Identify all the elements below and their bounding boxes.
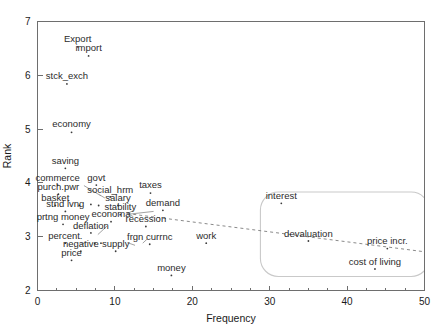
data-point-label: interest <box>266 190 298 201</box>
data-point-label: economy <box>52 118 91 129</box>
data-point <box>145 226 147 228</box>
data-point-label: recession <box>126 213 167 224</box>
data-point <box>71 131 73 133</box>
data-point-label: supply <box>102 238 130 249</box>
data-point <box>88 55 90 57</box>
x-tick-label: 40 <box>342 296 354 307</box>
data-point-label: stnd lvng <box>46 198 84 209</box>
data-point-label: import <box>75 42 102 53</box>
data-point <box>110 221 112 223</box>
x-tick-label: 0 <box>35 296 41 307</box>
y-tick-label: 2 <box>25 285 31 296</box>
x-tick-label: 30 <box>264 296 276 307</box>
y-tick-label: 5 <box>25 124 31 135</box>
axis-frame-layer <box>38 22 425 291</box>
data-point <box>205 242 207 244</box>
data-point-label: saving <box>52 155 79 166</box>
data-point-label: devaluation <box>284 228 333 239</box>
x-tick-label: 10 <box>109 296 121 307</box>
data-point-label: price incr. <box>367 235 408 246</box>
data-point-label: frgn currnc <box>127 231 173 242</box>
data-point <box>90 232 92 234</box>
data-point <box>308 240 310 242</box>
data-point <box>66 83 68 85</box>
plot-canvas: 01020304050234567 Exportimportstck_exche… <box>0 0 440 330</box>
data-point-label: price <box>61 247 82 258</box>
y-tick-label: 3 <box>25 231 31 242</box>
data-point <box>98 205 100 207</box>
data-point-label: stck_exch <box>46 70 88 81</box>
data-point <box>64 167 66 169</box>
data-point <box>115 250 117 252</box>
tick-layer <box>38 22 425 291</box>
data-point <box>386 248 388 250</box>
data-point <box>149 243 151 245</box>
data-point-label: demand <box>146 197 180 208</box>
y-tick-label: 4 <box>25 177 31 188</box>
point-label-layer: Exportimportstck_excheconomysavingcommer… <box>35 33 407 273</box>
data-point <box>280 202 282 204</box>
data-point <box>150 192 152 194</box>
x-axis-title: Frequency <box>206 312 256 324</box>
data-point <box>71 259 73 261</box>
data-point <box>162 209 164 211</box>
x-tick-label: 20 <box>187 296 199 307</box>
data-point <box>171 275 173 277</box>
data-point <box>90 204 92 206</box>
data-point <box>62 223 64 225</box>
y-axis-title: Rank <box>1 143 13 168</box>
y-tick-label: 7 <box>25 16 31 27</box>
data-point-label: work <box>195 230 216 241</box>
data-point-label: govt <box>87 172 105 183</box>
data-point-label: taxes <box>139 179 162 190</box>
data-point-label: money <box>157 262 186 273</box>
data-point-label: purch.pwr <box>38 181 80 192</box>
plot-frame <box>38 22 425 291</box>
data-point <box>374 268 376 270</box>
y-tick-label: 6 <box>25 70 31 81</box>
label-leader-line <box>99 195 104 198</box>
data-point-label: cost of living <box>349 256 401 267</box>
scatter-plot-figure: 01020304050234567 Exportimportstck_exche… <box>0 0 440 330</box>
x-tick-label: 50 <box>419 296 431 307</box>
